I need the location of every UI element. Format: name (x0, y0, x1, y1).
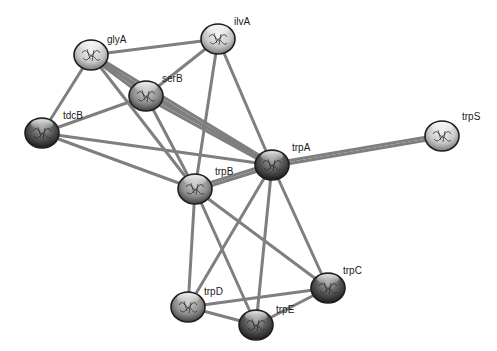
gloss-highlight (80, 41, 102, 51)
node-label-trpE: trpE (276, 304, 295, 315)
edge-trpA-trpC (272, 165, 328, 288)
network-diagram: glyAilvAserBtdcBtrpAtrpStrpBtrpCtrpDtrpE (0, 0, 497, 351)
node-trpS[interactable]: trpS (425, 111, 481, 151)
node-label-tdcB: tdcB (63, 110, 83, 121)
node-label-trpD: trpD (204, 286, 223, 297)
node-layer: glyAilvAserBtdcBtrpAtrpStrpBtrpCtrpDtrpE (25, 16, 481, 340)
gloss-highlight (317, 274, 339, 284)
gloss-highlight (184, 175, 206, 185)
node-label-glyA: glyA (107, 34, 127, 45)
node-trpE[interactable]: trpE (239, 304, 295, 340)
gloss-highlight (135, 82, 157, 92)
node-label-trpB: trpB (215, 166, 234, 177)
gloss-highlight (177, 293, 199, 303)
edge-layer (42, 39, 442, 325)
gloss-highlight (245, 311, 267, 321)
node-label-trpC: trpC (343, 265, 362, 276)
node-label-serB: serB (162, 73, 183, 84)
edge-trpB-trpD (188, 189, 195, 307)
gloss-highlight (207, 25, 229, 35)
node-label-ilvA: ilvA (234, 16, 250, 27)
gloss-highlight (31, 119, 53, 129)
gloss-highlight (261, 151, 283, 161)
node-ilvA[interactable]: ilvA (201, 16, 250, 54)
gloss-highlight (431, 122, 453, 132)
node-label-trpA: trpA (292, 142, 311, 153)
node-label-trpS: trpS (462, 111, 481, 122)
